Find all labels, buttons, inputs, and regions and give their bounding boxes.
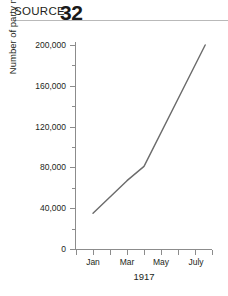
x-tick-6: [178, 250, 179, 255]
y-tick-120000: [70, 127, 75, 128]
y-tick-200000: [70, 45, 75, 46]
y-axis-title: Number of party members: [7, 0, 18, 84]
x-tick-0: [76, 250, 77, 255]
header-divider: [14, 20, 228, 21]
y-tick-minor-60000: [72, 188, 75, 189]
y-tick-minor-100000: [72, 147, 75, 148]
y-tick-label-160000: 160,000: [35, 81, 66, 91]
y-tick-minor-140000: [72, 106, 75, 107]
y-tick-0: [70, 249, 75, 250]
x-tick-label-july: July: [188, 257, 203, 267]
x-tick-3: [127, 250, 128, 255]
x-tick-label-jan: Jan: [86, 257, 100, 267]
y-tick-label-200000: 200,000: [35, 40, 66, 50]
y-tick-label-0: 0: [61, 244, 66, 254]
y-tick-80000: [70, 167, 75, 168]
series-line-members: [93, 45, 205, 213]
y-tick-40000: [70, 208, 75, 209]
plot-area: [76, 45, 212, 249]
x-tick-8: [212, 250, 213, 255]
x-tick-1: [93, 250, 94, 255]
series-svg: [76, 45, 212, 249]
x-tick-2: [110, 250, 111, 255]
x-tick-label-may: May: [153, 257, 169, 267]
source-header: SOURCE 32: [0, 0, 228, 28]
x-tick-4: [144, 250, 145, 255]
y-tick-160000: [70, 86, 75, 87]
x-tick-label-mar: Mar: [120, 257, 135, 267]
line-chart: 200,000 160,000 120,000 80,000 40,000 0 …: [0, 28, 228, 296]
x-axis-title: 1917: [76, 271, 212, 282]
y-tick-minor-180000: [72, 65, 75, 66]
y-tick-label-80000: 80,000: [40, 162, 66, 172]
y-tick-label-120000: 120,000: [35, 122, 66, 132]
x-tick-5: [161, 250, 162, 255]
source-number: 32: [60, 1, 82, 25]
y-tick-minor-20000: [72, 229, 75, 230]
x-tick-7: [195, 250, 196, 255]
y-tick-label-40000: 40,000: [40, 203, 66, 213]
source-label: SOURCE: [14, 5, 65, 17]
